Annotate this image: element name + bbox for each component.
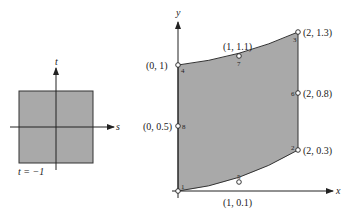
s-axis-label: s xyxy=(116,121,120,132)
mapped-element-diagram: y x 1 2 3 4 5 6 7 8 (2, 0.3) (2, 1.3) (0… xyxy=(143,7,341,209)
node-8-number: 8 xyxy=(182,123,186,131)
node-8-coord: (0, 0.5) xyxy=(143,121,172,133)
node-4-coord: (0, 1) xyxy=(146,60,168,72)
t-axis-label: t xyxy=(55,56,58,67)
node-6-coord: (2, 0.8) xyxy=(303,88,332,100)
node-4 xyxy=(176,63,181,68)
node-3-coord: (2, 1.3) xyxy=(303,27,332,39)
node-8 xyxy=(176,124,181,129)
reference-square-diagram: t s t = −1 xyxy=(10,56,120,177)
node-4-number: 4 xyxy=(181,67,185,75)
node-3-number: 3 xyxy=(293,36,297,44)
y-axis-label: y xyxy=(175,7,181,18)
node-2-coord: (2, 0.3) xyxy=(303,145,332,157)
node-7-number: 7 xyxy=(237,60,241,68)
node-7 xyxy=(237,54,242,59)
node-6 xyxy=(296,91,301,96)
node-7-coord: (1, 1.1) xyxy=(223,41,252,53)
node-5-coord: (1, 0.1) xyxy=(223,197,252,209)
x-axis-label: x xyxy=(335,185,341,196)
node-1 xyxy=(176,189,181,194)
node-6-number: 6 xyxy=(291,90,295,98)
diagram-canvas: t s t = −1 y x 1 2 3 4 5 6 7 8 (2, 0.3) xyxy=(0,0,344,214)
node-2-number: 2 xyxy=(291,144,295,152)
node-1-number: 1 xyxy=(181,183,185,191)
node-2 xyxy=(296,148,301,153)
node-5-number: 5 xyxy=(237,173,241,181)
node-3 xyxy=(296,30,301,35)
bottom-edge-label: t = −1 xyxy=(18,166,44,177)
